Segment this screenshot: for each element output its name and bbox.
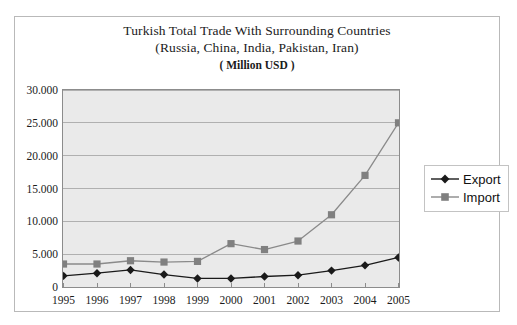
y-axis-tick-label: 25.000 bbox=[6, 117, 58, 129]
y-axis-tick-label: 30.000 bbox=[6, 84, 58, 96]
y-axis-tick-label: 10.000 bbox=[6, 215, 58, 227]
y-axis-tick-labels: 05.00010.00015.00020.00025.00030.000 bbox=[0, 0, 58, 325]
y-axis-tick-label: 0 bbox=[6, 281, 58, 293]
export-marker-icon bbox=[430, 172, 460, 186]
y-axis-tick-label: 15.000 bbox=[6, 183, 58, 195]
y-axis-tick-label: 20.000 bbox=[6, 150, 58, 162]
x-axis-tick-labels: 1995199619971998199920002001200220032004… bbox=[0, 294, 517, 312]
x-axis-tick-label: 2005 bbox=[377, 294, 421, 306]
legend-label-import: Import bbox=[463, 190, 500, 205]
chart-legend: Export Import bbox=[424, 165, 509, 212]
legend-item-export[interactable]: Export bbox=[430, 170, 501, 188]
y-axis-tick-label: 5.000 bbox=[6, 248, 58, 260]
chart-container: Turkish Total Trade With Surrounding Cou… bbox=[0, 0, 517, 325]
legend-label-export: Export bbox=[463, 172, 501, 187]
import-marker-icon bbox=[430, 190, 460, 204]
legend-item-import[interactable]: Import bbox=[430, 188, 501, 206]
plot-area bbox=[62, 89, 400, 288]
plot-svg bbox=[63, 90, 399, 287]
